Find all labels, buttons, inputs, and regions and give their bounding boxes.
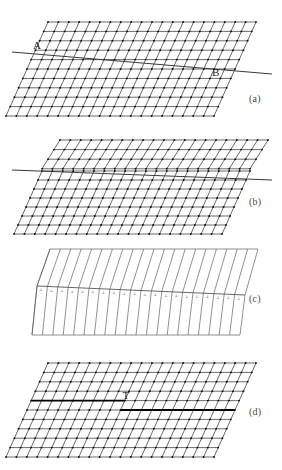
dislocation-symbol: T bbox=[122, 389, 129, 401]
panel-label-b: (b) bbox=[249, 196, 261, 207]
panel-c: ⊥⊥⊥⊥⊥⊥⊥⊥⊥⊥⊥⊥⊥⊥⊥⊥⊥⊥⊥⊥ bbox=[0, 237, 282, 347]
dislocation-symbol: ⊥ bbox=[50, 288, 54, 293]
panel-a: A B bbox=[0, 0, 282, 130]
slip-trace-ab bbox=[12, 52, 272, 74]
panel-d-lattice: T bbox=[0, 347, 282, 470]
panel-b bbox=[0, 125, 282, 237]
point-label-a: A bbox=[33, 39, 41, 51]
dislocation-symbol: ⊥ bbox=[39, 287, 43, 292]
panel-b-lattice bbox=[0, 125, 282, 237]
dislocation-symbol: ⊥ bbox=[237, 296, 241, 301]
dislocation-symbol: ⊥ bbox=[216, 295, 220, 300]
dislocation-symbol: ⊥ bbox=[60, 288, 64, 293]
dislocation-figure: A B (a) (b) ⊥⊥⊥⊥⊥⊥⊥⊥⊥⊥⊥⊥⊥⊥⊥⊥⊥⊥⊥⊥ (c) T (… bbox=[0, 0, 282, 470]
panel-d: T bbox=[0, 347, 282, 470]
dislocation-symbol: ⊥ bbox=[70, 289, 74, 294]
dislocation-symbol: ⊥ bbox=[195, 294, 199, 299]
dislocation-symbol: ⊥ bbox=[226, 295, 230, 300]
panel-label-d: (d) bbox=[249, 406, 261, 417]
dislocation-symbol: ⊥ bbox=[133, 291, 137, 296]
dislocation-symbol: ⊥ bbox=[91, 289, 95, 294]
dislocation-symbol: ⊥ bbox=[206, 294, 210, 299]
panel-c-chevron: ⊥⊥⊥⊥⊥⊥⊥⊥⊥⊥⊥⊥⊥⊥⊥⊥⊥⊥⊥⊥ bbox=[0, 237, 282, 347]
dislocation-symbol: ⊥ bbox=[122, 291, 126, 296]
panel-label-a: (a) bbox=[249, 93, 261, 104]
dislocation-symbol: ⊥ bbox=[81, 289, 85, 294]
dislocation-symbol: ⊥ bbox=[102, 290, 106, 295]
dislocation-symbol: ⊥ bbox=[164, 293, 168, 298]
panel-a-lattice bbox=[0, 0, 282, 130]
dislocation-symbol: ⊥ bbox=[112, 290, 116, 295]
point-label-b: B bbox=[212, 66, 219, 78]
panel-label-c: (c) bbox=[249, 293, 261, 304]
dislocation-symbol: ⊥ bbox=[154, 292, 158, 297]
dislocation-symbol: ⊥ bbox=[185, 294, 189, 299]
dislocation-symbol: ⊥ bbox=[143, 292, 147, 297]
dislocation-symbol: ⊥ bbox=[174, 293, 178, 298]
